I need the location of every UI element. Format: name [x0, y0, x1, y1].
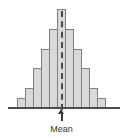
mean-dashed-line: [61, 11, 63, 110]
x-axis-baseline: [8, 107, 120, 109]
mean-arrow-head-icon: [58, 109, 64, 114]
mean-label: Mean: [40, 124, 84, 134]
histogram-figure: Mean: [0, 0, 128, 138]
histogram-plot-area: Mean: [0, 0, 128, 138]
mean-arrow-stem: [61, 113, 63, 121]
